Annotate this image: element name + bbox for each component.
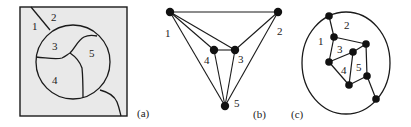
face-label-4: 4 [341,64,347,76]
graph-edges [170,12,278,106]
node-1 [166,8,174,16]
vertex [345,81,353,89]
caption-b: (b) [253,108,266,121]
vertex [372,95,380,103]
node-5 [221,102,229,110]
edge-1-4 [170,12,214,50]
region-label-5: 5 [89,47,95,59]
face-label-2: 2 [344,19,350,31]
edge-2-3 [235,12,278,50]
panel-c-dual: 1 2 3 4 5 [302,12,390,114]
edge-1-3 [170,12,235,50]
node-label-3: 3 [238,53,244,65]
edge [366,44,367,76]
node-4 [210,46,218,54]
vertex [349,48,357,56]
vertex [325,58,333,66]
dual-edges [329,16,376,99]
region-label-1: 1 [32,20,38,32]
panel-a-map: 1 2 3 4 5 [20,7,127,116]
vertex [325,12,333,20]
edge [329,37,334,62]
edge [349,52,353,85]
vertex [362,40,370,48]
caption-a: (a) [137,107,150,120]
vertex [363,72,371,80]
caption-c: (c) [291,108,304,121]
vertex [330,33,338,41]
node-label-5: 5 [234,97,240,109]
edge-1-5 [170,12,225,106]
face-label-5: 5 [356,61,362,73]
panel-b-graph: 1 2 3 4 5 [165,8,283,110]
region-label-4: 4 [52,74,58,86]
figure: 1 2 3 4 5 (a) 1 2 3 4 5 (b) [0,0,411,127]
region-label-3: 3 [52,40,58,52]
node-label-1: 1 [165,27,171,39]
face-label-1: 1 [318,35,324,47]
node-label-4: 4 [204,54,210,66]
node-label-2: 2 [277,25,283,37]
region-label-2: 2 [51,11,57,23]
face-label-3: 3 [337,43,343,55]
node-2 [274,8,282,16]
